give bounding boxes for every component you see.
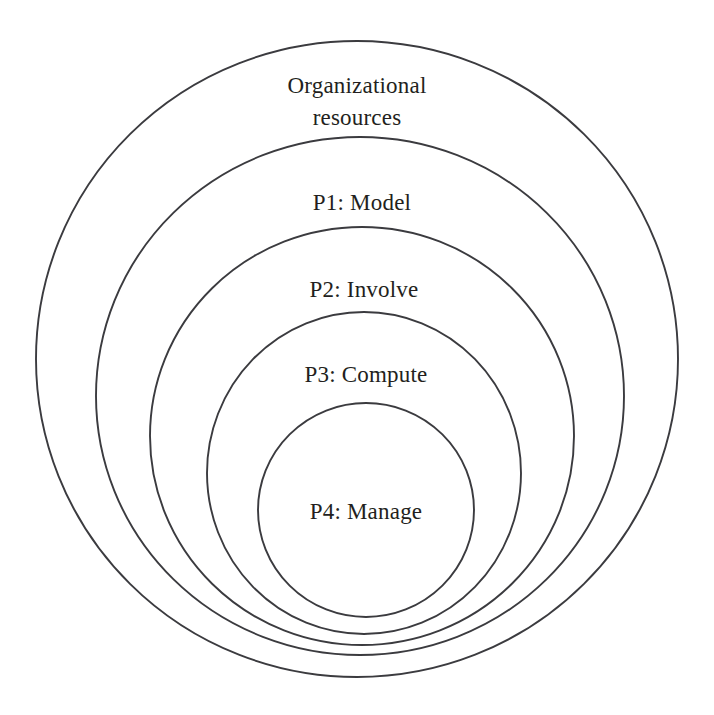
label-organizational-resources-line1: Organizational [287,73,426,98]
label-p2-involve: P2: Involve [310,277,419,302]
label-p1-model: P1: Model [313,190,411,215]
circle-p3-compute[interactable] [207,312,521,634]
label-p3-compute: P3: Compute [305,362,428,387]
label-p4-manage: P4: Manage [310,499,423,524]
label-organizational-resources-line2: resources [313,105,402,130]
nested-circles-diagram: Organizational resources P1: Model P2: I… [0,0,714,715]
diagram-canvas: Organizational resources P1: Model P2: I… [0,0,714,715]
